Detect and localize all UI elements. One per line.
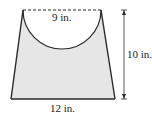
top-width-label: 9 in. [52, 12, 72, 23]
bottom-width-label: 12 in. [50, 103, 75, 114]
trapezoid-figure: 9 in. 10 in. 12 in. [0, 0, 152, 116]
height-label: 10 in. [127, 49, 152, 60]
arrow-down-icon [122, 94, 126, 99]
arrow-up-icon [122, 10, 126, 15]
